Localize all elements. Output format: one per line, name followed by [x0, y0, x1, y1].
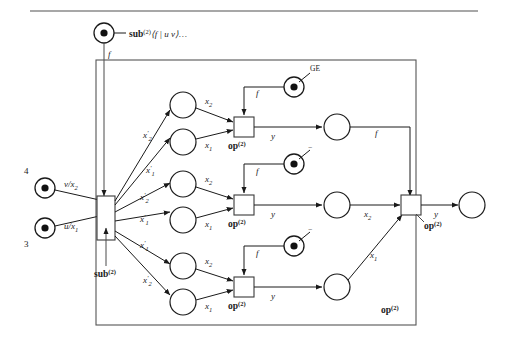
ge-label-pointer [299, 73, 310, 82]
figure-canvas: sub(2)⟨f | u v⟩… f op(2) 4 v/x2 3 u/x1 s… [0, 0, 505, 347]
row-mid-f-edge [244, 164, 284, 193]
row-mid-op-label: op(2) [228, 218, 246, 230]
row-top-f-edge [244, 87, 284, 115]
input-3-label: 3 [24, 239, 29, 249]
input-3-edge-label: u/x1 [64, 221, 78, 233]
row-top-edge-x2 [196, 108, 233, 122]
row-mid-result-place[interactable] [324, 192, 350, 218]
row-top-out-label: y [270, 131, 275, 141]
fanout-label-1: x′2 [142, 129, 153, 142]
row-bot-out-label: y [270, 291, 275, 301]
final-out-label: y [433, 209, 438, 219]
op-token-ge-label: GE [310, 64, 320, 73]
row-mid-op-box[interactable] [234, 195, 254, 215]
figure-title: sub(2)⟨f | u v⟩… [129, 28, 187, 40]
row-top-label-x1: x1 [204, 140, 212, 152]
row-top-op-box[interactable] [234, 117, 254, 137]
row-bot-edge-x2 [196, 269, 233, 281]
input-4-label: 4 [24, 166, 29, 176]
source-token-node[interactable] [94, 23, 114, 43]
row-bot-edge-x1 [196, 290, 233, 300]
row-bot-op-label: op(2) [228, 300, 246, 312]
row-mid-edge-x2 [196, 187, 233, 199]
row-mid-edge-x1 [196, 208, 233, 218]
row-mid-label-x1: x1 [204, 219, 212, 231]
row-top-result-edge [350, 127, 410, 196]
fanout-label-5: x′1 [139, 239, 149, 252]
input-4-edge-label: v/x2 [64, 179, 79, 191]
fanout-label-3: x′2 [139, 191, 150, 204]
row-mid-place-x2[interactable] [170, 171, 196, 197]
row-mid-result-label: x2 [363, 209, 372, 221]
row-top-label-x2: x2 [204, 96, 213, 108]
final-op-box[interactable] [401, 195, 421, 215]
row-top-f-label: f [256, 88, 260, 98]
row-top-edge-x1 [196, 130, 233, 139]
row-top-op-label: op(2) [228, 140, 246, 152]
row-bot-f-edge [244, 246, 284, 275]
row-mid-f-label: f [256, 166, 260, 176]
row-mid-out-label: y [270, 209, 275, 219]
fanout-label-6: x′2 [142, 274, 153, 287]
row-top-place-x2[interactable] [170, 92, 196, 118]
row-mid-label-x2: x2 [204, 174, 213, 186]
row-top-place-x1[interactable] [170, 129, 196, 155]
final-op-label: op(2) [424, 220, 442, 232]
row-top-result-label: f [375, 128, 379, 138]
row-bot-op-box[interactable] [234, 277, 254, 297]
final-result-place[interactable] [459, 192, 485, 218]
row-bot-place-x1[interactable] [170, 289, 196, 315]
sub-box-label: sub(2) [94, 268, 116, 280]
outer-op-label: op(2) [381, 304, 399, 316]
row-mid-place-x1[interactable] [170, 207, 196, 233]
row-bot-label-x1: x1 [204, 301, 212, 313]
row-bot-place-x2[interactable] [170, 253, 196, 279]
input-token-4[interactable] [35, 178, 55, 198]
row-bot-label-x2: x2 [204, 256, 213, 268]
row-bot-result-label: x1 [369, 250, 377, 262]
row-bot-result-place[interactable] [324, 274, 350, 300]
row-top-result-place[interactable] [324, 114, 350, 140]
fanout-label-4: x′1 [139, 213, 149, 226]
row-bot-f-label: f [256, 248, 260, 258]
input-token-3[interactable] [35, 218, 55, 238]
fanout-label-2: x′1 [145, 164, 155, 177]
source-f-label: f [108, 49, 112, 59]
row-bot-result-edge [348, 215, 402, 280]
op-token-minus-1-label: − [308, 143, 312, 152]
op-token-minus-2-label: − [308, 225, 312, 234]
